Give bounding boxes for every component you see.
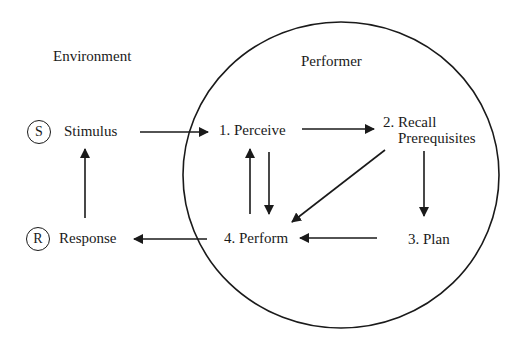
stimulus-badge-icon: S [27, 120, 51, 144]
environment-region-label: Environment [53, 48, 131, 65]
plan-node-label: 3. Plan [408, 231, 450, 248]
performer-region-label: Performer [301, 53, 362, 70]
arrow-recall-to-perform [292, 150, 385, 222]
diagram-canvas: Environment Performer S Stimulus R Respo… [0, 0, 519, 348]
recall-node-label-line2: Prerequisites [398, 130, 475, 147]
stimulus-badge-letter: S [35, 125, 43, 139]
response-badge-icon: R [26, 227, 50, 251]
perform-node-label: 4. Perform [224, 230, 288, 247]
response-label: Response [59, 230, 117, 247]
recall-node-label-line1: 2. Recall [383, 114, 436, 131]
response-badge-letter: R [33, 232, 42, 246]
stimulus-label: Stimulus [64, 123, 117, 140]
perceive-node-label: 1. Perceive [219, 122, 286, 139]
